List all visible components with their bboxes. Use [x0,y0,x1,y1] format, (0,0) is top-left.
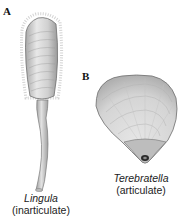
panel-label-b: B [82,70,89,82]
terebratella-drawing [96,75,177,163]
terebratella-caption: Terebratella (articulate) [100,172,182,196]
terebratella-genus-label: Terebratella [100,172,182,184]
lingula-group-label: (inarticulate) [0,204,82,216]
panel-label-a: A [3,5,11,17]
lingula-genus-label: Lingula [0,192,82,204]
terebratella-group-label: (articulate) [100,184,182,196]
lingula-drawing [22,14,62,192]
lingula-caption: Lingula (inarticulate) [0,192,82,216]
